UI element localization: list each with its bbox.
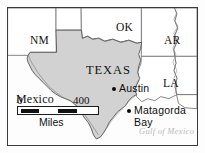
label-texas: TEXAS: [86, 64, 131, 77]
state-kansas-colorado: [56, 8, 81, 30]
label-austin: Austin: [119, 83, 149, 94]
label-gulf-of-mexico: Gulf of Mexico: [139, 127, 194, 136]
austin-dot: [112, 87, 116, 91]
label-matagorda-bay-line2: Bay: [134, 117, 153, 128]
scale-bar: 0 400 Miles: [17, 106, 99, 115]
label-matagorda-bay-line1: Matagorda: [134, 105, 186, 116]
map-figure: NM OK AR LA TEXAS Mexico Gulf of Mexico …: [0, 0, 205, 153]
label-ok: OK: [116, 22, 133, 34]
scale-segment-2: [58, 109, 77, 113]
label-ar: AR: [164, 35, 180, 47]
scale-units-label: Miles: [39, 116, 64, 128]
scale-ticks: [17, 106, 99, 115]
label-la: LA: [163, 78, 179, 90]
matagorda-bay-dot: [127, 109, 131, 113]
state-new-mexico: [8, 8, 56, 55]
scale-segment-1: [21, 109, 39, 113]
map-frame: NM OK AR LA TEXAS Mexico Gulf of Mexico …: [7, 7, 198, 146]
state-east-of-arkansas: [174, 8, 197, 56]
scale-max-label: 400: [73, 94, 90, 106]
scale-min-label: 0: [17, 94, 23, 106]
state-arkansas: [142, 8, 178, 56]
label-nm: NM: [30, 35, 49, 47]
